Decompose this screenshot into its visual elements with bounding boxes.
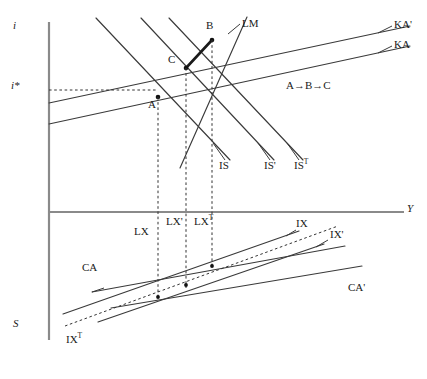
curve-label-ix-prime: IX' — [330, 229, 344, 240]
ka-prime-curve — [49, 26, 410, 103]
curve-label-is-t: IST — [294, 160, 308, 171]
lower-point-3 — [210, 264, 214, 268]
curve-label-ix-t-base: IX — [66, 333, 78, 345]
curve-label-ix: IX — [296, 218, 308, 229]
axis-label-Y: Y — [407, 203, 413, 214]
axis-label-i-star-text: i* — [11, 79, 20, 91]
curve-label-is-t-sup: T — [304, 157, 309, 166]
leader-lines-group — [92, 24, 392, 292]
leader-is-t — [287, 143, 299, 160]
lower-intersection-markers-group — [156, 264, 214, 299]
output-marker-lx-prime: LX' — [166, 216, 183, 227]
upper-curves-group — [49, 17, 410, 168]
ix-curve — [63, 231, 299, 314]
output-marker-lx-t-sup: T — [209, 213, 214, 222]
point-label-b: B — [206, 20, 213, 31]
curve-label-ca-prime: CA' — [348, 282, 365, 293]
leader-ix-prime — [316, 240, 328, 247]
adjustment-path-segment — [186, 40, 212, 68]
ca-curve — [92, 246, 345, 292]
diagram-canvas — [0, 0, 427, 379]
point-label-a: A — [148, 99, 156, 110]
leader-is-prime — [258, 143, 270, 160]
economics-diagram: i i* Y S A C B LM KA' KA IS IS' IST A→B→… — [0, 0, 427, 379]
adjustment-annotation: A→B→C — [286, 80, 331, 91]
leader-lm — [228, 24, 240, 34]
curve-label-is-prime: IS' — [264, 160, 276, 171]
axis-label-i: i — [13, 20, 16, 31]
curve-label-ka-prime: KA' — [394, 19, 412, 30]
is-t-curve — [169, 18, 303, 160]
output-marker-lx-t-base: LX — [194, 215, 209, 227]
curve-label-is: IS — [219, 160, 229, 171]
leader-is — [213, 143, 225, 160]
lower-point-2 — [184, 283, 188, 287]
curve-label-ix-t-sup: T — [78, 331, 83, 340]
upper-dashed-group — [49, 40, 212, 300]
output-marker-lx-t: LXT — [194, 216, 213, 227]
is-prime-curve — [141, 18, 274, 160]
curve-label-lm: LM — [242, 18, 259, 29]
curve-label-is-t-base: IS — [294, 159, 304, 171]
leader-ka-prime — [378, 26, 392, 33]
ca-prime-curve — [111, 266, 362, 308]
curve-label-ca: CA — [82, 262, 97, 273]
curve-label-ix-t: IXT — [66, 334, 82, 345]
curve-label-ka: KA — [394, 39, 410, 50]
point-label-c: C — [168, 54, 175, 65]
axis-label-S: S — [13, 318, 19, 329]
ix-t-curve — [65, 226, 338, 326]
output-marker-lx: LX — [134, 226, 149, 237]
axis-label-i-star: i* — [11, 80, 20, 91]
lower-point-1 — [156, 295, 160, 299]
ix-prime-curve — [98, 244, 324, 322]
